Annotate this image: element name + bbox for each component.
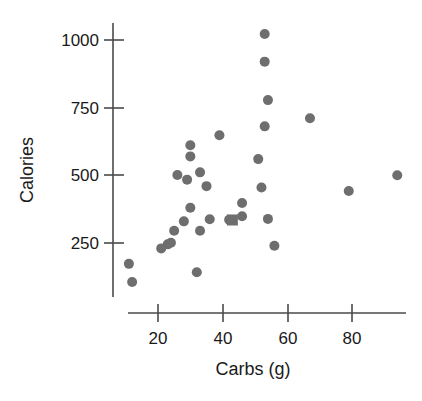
data-point: [185, 140, 195, 150]
plot-svg: 1000 750 500 250 20 40 60 80 Carbs (g) C…: [0, 0, 422, 401]
data-point: [260, 121, 270, 131]
data-point: [202, 181, 212, 191]
x-tick-label-40: 40: [214, 329, 233, 348]
data-point-square: [227, 214, 238, 225]
y-tick-label-750: 750: [71, 99, 99, 118]
data-point: [166, 238, 176, 248]
data-point: [344, 186, 354, 196]
data-point: [253, 154, 263, 164]
scatter-plot-figure: 1000 750 500 250 20 40 60 80 Carbs (g) C…: [0, 0, 422, 401]
x-axis-title: Carbs (g): [215, 359, 290, 379]
y-tick-label-250: 250: [71, 234, 99, 253]
data-point: [269, 241, 279, 251]
y-axis-title: Calories: [17, 137, 37, 203]
data-point: [127, 277, 137, 287]
data-point: [237, 211, 247, 221]
data-point: [192, 267, 202, 277]
data-points-layer: [124, 29, 402, 287]
data-point: [205, 214, 215, 224]
y-tick-label-500: 500: [71, 166, 99, 185]
data-point: [169, 226, 179, 236]
data-point: [214, 130, 224, 140]
data-point: [124, 259, 134, 269]
data-point: [256, 183, 266, 193]
x-tick-label-60: 60: [279, 329, 298, 348]
data-point: [182, 175, 192, 185]
data-point: [195, 167, 205, 177]
data-point: [195, 226, 205, 236]
x-tick-label-20: 20: [149, 329, 168, 348]
data-point: [263, 214, 273, 224]
data-point: [172, 170, 182, 180]
data-point: [179, 216, 189, 226]
data-point: [237, 198, 247, 208]
data-point: [260, 29, 270, 39]
data-point: [260, 57, 270, 67]
data-point: [392, 170, 402, 180]
data-point: [263, 95, 273, 105]
y-tick-label-1000: 1000: [61, 31, 99, 50]
data-point: [185, 151, 195, 161]
data-point: [305, 113, 315, 123]
x-tick-label-80: 80: [343, 329, 362, 348]
data-point: [185, 203, 195, 213]
